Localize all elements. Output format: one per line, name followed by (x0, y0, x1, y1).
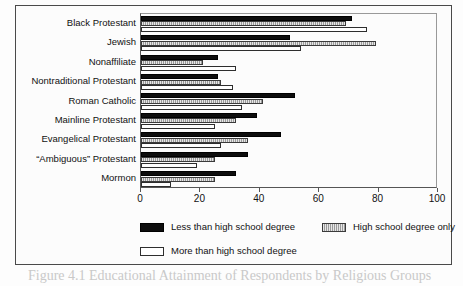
bar-group (141, 74, 436, 90)
bar (141, 105, 242, 110)
x-tick-mark (318, 188, 319, 192)
bar (141, 66, 236, 71)
x-tick-label: 100 (429, 193, 446, 204)
bar (141, 132, 281, 137)
bar (141, 46, 301, 51)
bar-group (141, 113, 436, 129)
bar (141, 55, 218, 60)
bar (141, 157, 215, 162)
bar (141, 124, 215, 129)
bar (141, 80, 221, 85)
category-label: Black Protestant (0, 18, 136, 28)
x-tick-mark (259, 188, 260, 192)
x-axis: 020406080100 (140, 188, 437, 208)
x-tick-label: 80 (372, 193, 383, 204)
bar (141, 99, 263, 104)
bar-group (141, 35, 436, 51)
category-label: Nontraditional Protestant (0, 76, 136, 86)
bar (141, 93, 295, 98)
category-label: Roman Catholic (0, 96, 136, 106)
legend-item-less-than-high-school[interactable]: Less than high school degree (140, 222, 295, 232)
legend-label: More than high school degree (171, 246, 297, 256)
bar (141, 152, 248, 157)
hatched-swatch-icon (322, 223, 346, 232)
bar (141, 21, 346, 26)
bar (141, 177, 215, 182)
plot-area (140, 13, 437, 188)
bar (141, 163, 197, 168)
bar (141, 143, 221, 148)
black-swatch-icon (140, 223, 164, 232)
x-tick-label: 0 (137, 193, 143, 204)
bar-group (141, 93, 436, 109)
bar (141, 182, 171, 187)
x-tick-label: 40 (253, 193, 264, 204)
bar (141, 16, 352, 21)
x-tick-mark (199, 188, 200, 192)
legend-label: Less than high school degree (171, 222, 295, 232)
category-axis-labels: Black ProtestantJewishNonaffiliateNontra… (0, 13, 136, 188)
bar (141, 85, 233, 90)
figure-container: Black ProtestantJewishNonaffiliateNontra… (0, 0, 463, 286)
x-tick-mark (437, 188, 438, 192)
bar-group (141, 132, 436, 148)
x-tick-label: 60 (313, 193, 324, 204)
bar (141, 74, 218, 79)
bar (141, 171, 236, 176)
bar (141, 113, 257, 118)
category-label: Jewish (0, 37, 136, 47)
x-tick-label: 20 (194, 193, 205, 204)
x-tick-mark (378, 188, 379, 192)
chart-legend: Less than high school degree High school… (140, 216, 440, 261)
category-label: Mormon (0, 173, 136, 183)
category-label: “Ambiguous” Protestant (0, 154, 136, 164)
category-label: Mainline Protestant (0, 115, 136, 125)
bar (141, 27, 367, 32)
category-label: Evangelical Protestant (0, 134, 136, 144)
bar-group (141, 152, 436, 168)
bar (141, 138, 248, 143)
bar (141, 118, 236, 123)
legend-label: High school degree only (353, 222, 455, 232)
bar-group (141, 55, 436, 71)
bar (141, 60, 203, 65)
bar-group (141, 171, 436, 187)
legend-item-high-school-only[interactable]: High school degree only (322, 222, 455, 232)
x-tick-mark (140, 188, 141, 192)
white-swatch-icon (140, 247, 164, 256)
category-label: Nonaffiliate (0, 57, 136, 67)
bar-group (141, 16, 436, 32)
bar (141, 41, 376, 46)
legend-item-more-than-high-school[interactable]: More than high school degree (140, 246, 297, 256)
figure-caption: Figure 4.1 Educational Attainment of Res… (28, 268, 448, 284)
bar (141, 35, 290, 40)
